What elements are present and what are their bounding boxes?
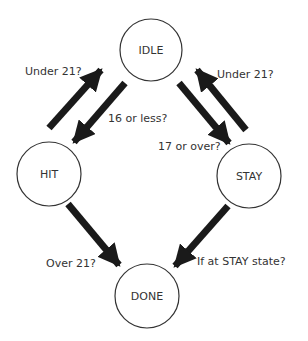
node-stay-label: STAY: [236, 170, 263, 183]
node-done: DONE: [115, 264, 179, 328]
arrow-idle-to-stay: [179, 83, 229, 143]
edge-label-hit-to-done: Over 21?: [46, 257, 96, 270]
edge-label-idle-to-stay: 17 or over?: [158, 140, 221, 153]
edge-label-stay-to-idle: Under 21?: [217, 68, 274, 81]
arrow-hit-to-done: [68, 204, 119, 265]
node-stay: STAY: [217, 144, 281, 208]
node-hit: HIT: [17, 142, 81, 206]
node-idle: IDLE: [120, 19, 182, 81]
node-done-label: DONE: [131, 290, 163, 303]
edge-label-stay-to-done: If at STAY state?: [197, 255, 286, 268]
edge-label-hit-to-idle: Under 21?: [25, 65, 82, 78]
state-diagram: IDLE HIT STAY DONE Under 21? 16 or less?…: [0, 0, 308, 341]
node-hit-label: HIT: [40, 168, 59, 181]
edge-label-idle-to-hit: 16 or less?: [108, 112, 168, 125]
node-idle-label: IDLE: [139, 44, 164, 57]
